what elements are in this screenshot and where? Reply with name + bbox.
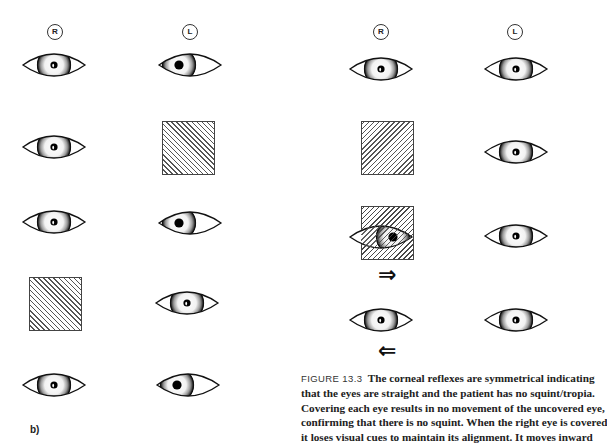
corneal-reflex — [379, 68, 381, 72]
pupil — [174, 218, 183, 227]
corneal-reflex — [379, 319, 381, 323]
occluder-cover-icon — [162, 121, 215, 175]
caption-line: FIGURE 13.3 The corneal reflexes are sym… — [301, 371, 591, 386]
caption-line: Covering each eye results in no movement… — [301, 401, 591, 415]
eye-icon — [157, 205, 223, 241]
caption-line: that the eyes are straight and the patie… — [301, 386, 591, 400]
right-eye-column-label: R — [373, 24, 389, 40]
eye-icon — [21, 47, 87, 83]
caption-text: The corneal reflexes are symmetrical ind… — [368, 372, 595, 384]
pupil — [174, 60, 183, 69]
eye-icon — [154, 285, 220, 321]
eye-icon — [21, 204, 87, 240]
corneal-reflex — [185, 302, 187, 306]
caption-line: confirming that there is no squint. When… — [301, 415, 591, 429]
figure-number: FIGURE 13.3 — [301, 373, 362, 384]
corneal-reflex — [514, 68, 516, 72]
corneal-reflex — [52, 384, 54, 388]
eye-icon — [21, 129, 87, 165]
caption-line: it loses visual cues to maintain its ali… — [301, 430, 591, 443]
arrow-left-icon: ⇐ — [378, 340, 396, 362]
corneal-reflex — [514, 151, 516, 155]
eye-icon — [483, 302, 549, 338]
eye-icon — [155, 367, 221, 403]
left-eye-column-label: L — [507, 24, 523, 40]
left-eye-column-label: L — [182, 24, 198, 40]
eye-icon — [483, 134, 549, 170]
eye-icon — [348, 302, 414, 338]
occluder-cover-icon — [361, 121, 414, 175]
corneal-reflex — [52, 146, 54, 150]
eye-icon — [483, 218, 549, 254]
occluder-cover-icon — [29, 277, 82, 331]
panel-label: b) — [30, 424, 39, 435]
eye-icon — [157, 47, 223, 83]
eye-icon — [21, 367, 87, 403]
corneal-reflex — [514, 235, 516, 239]
eye-icon — [348, 51, 414, 87]
right-eye-column-label: R — [47, 24, 63, 40]
eye-icon — [483, 51, 549, 87]
pupil — [172, 380, 181, 389]
corneal-reflex — [52, 221, 54, 225]
corneal-reflex — [514, 319, 516, 323]
corneal-reflex — [52, 64, 54, 68]
figure-caption: FIGURE 13.3 The corneal reflexes are sym… — [301, 371, 591, 443]
arrow-right-icon: ⇒ — [378, 264, 396, 286]
occluder-cover-overlay — [361, 206, 414, 260]
